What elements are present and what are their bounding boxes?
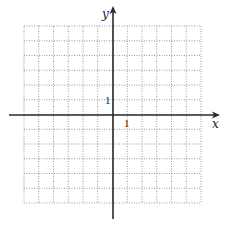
x-tick-label: 1 bbox=[124, 117, 130, 129]
coordinate-plane: y x 1 1 bbox=[0, 0, 228, 228]
x-axis-label: x bbox=[212, 117, 219, 131]
y-tick-label: 1 bbox=[105, 94, 111, 106]
y-axis-label: y bbox=[101, 7, 109, 21]
